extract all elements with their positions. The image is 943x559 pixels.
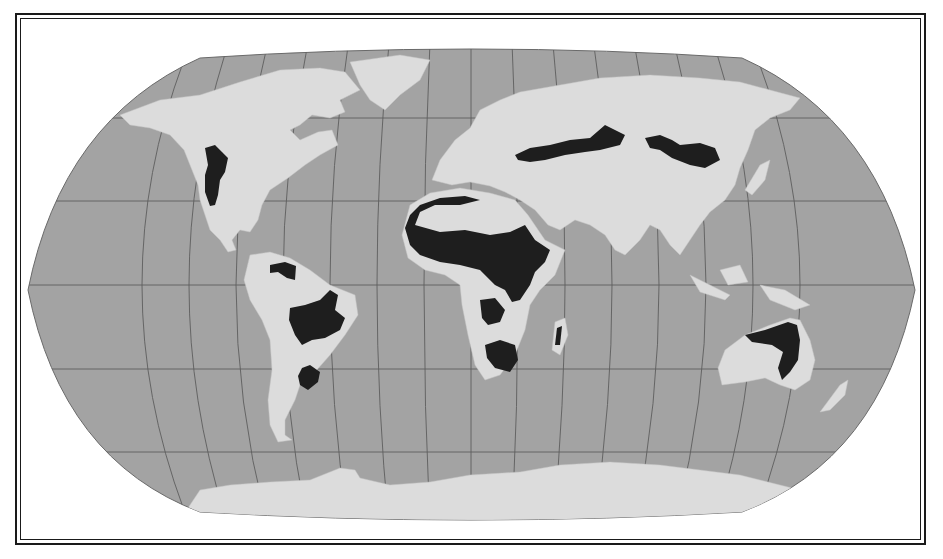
world-map: [0, 0, 943, 559]
